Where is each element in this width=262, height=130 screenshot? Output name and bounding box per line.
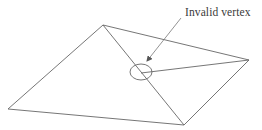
edge-top-bottom <box>103 25 184 125</box>
mesh-figure <box>0 0 262 130</box>
edge-top-right <box>103 25 249 60</box>
edge-bottom-right <box>184 60 249 125</box>
edge-top-left <box>8 25 103 109</box>
edge-right-invalid <box>141 60 249 73</box>
annotation-arrow <box>147 18 181 61</box>
mesh-edges <box>8 25 249 125</box>
invalid-vertex-label: Invalid vertex <box>185 6 251 18</box>
mesh-diagram: Invalid vertex <box>0 0 262 130</box>
edge-left-bottom <box>8 109 184 125</box>
